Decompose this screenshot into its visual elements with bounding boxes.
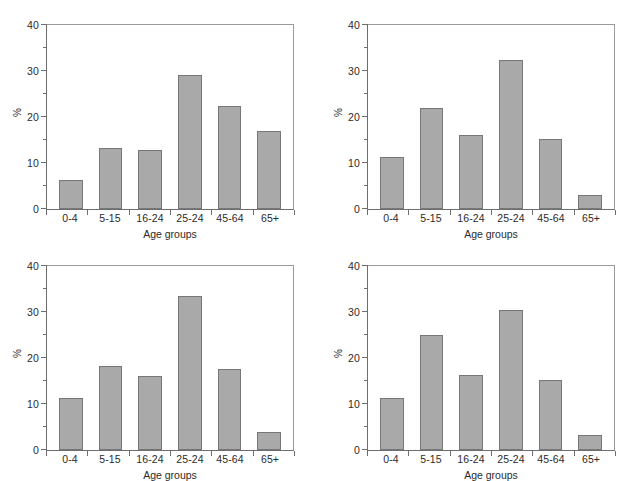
x-tick-label: 25-24 [491, 453, 531, 465]
bar-slot [451, 25, 491, 209]
bar-slot [170, 266, 210, 450]
y-tick-label: 0 [33, 203, 39, 215]
x-tick-label: 5-15 [90, 212, 130, 224]
x-axis-labels: 0-45-1516-2425-2445-6465+ [367, 453, 615, 465]
bar-slot [210, 25, 250, 209]
x-tick-label: 0-4 [50, 212, 90, 224]
y-tick-label: 20 [27, 352, 39, 364]
bar [459, 135, 483, 209]
bar [138, 150, 162, 209]
bar-slot [531, 25, 571, 209]
y-tick-minor [364, 139, 368, 140]
bar-slot [91, 25, 131, 209]
y-tick-label: 30 [348, 306, 360, 318]
y-tick-label: 40 [27, 19, 39, 31]
y-tick-major [362, 116, 368, 117]
y-tick-major [362, 208, 368, 209]
y-tick-major [362, 162, 368, 163]
y-tick-label: 40 [27, 260, 39, 272]
y-tick-major [362, 24, 368, 25]
y-tick-major [41, 311, 47, 312]
bar-slot [491, 25, 531, 209]
y-tick-label: 0 [354, 203, 360, 215]
y-tick-label: 30 [27, 65, 39, 77]
y-tick-major [362, 70, 368, 71]
y-tick-label: 20 [27, 111, 39, 123]
bar [138, 376, 162, 450]
bar-series [47, 266, 293, 450]
bar [380, 157, 404, 209]
x-axis-title: Age groups [46, 469, 294, 481]
bar [499, 60, 523, 209]
y-tick-label: 20 [348, 111, 360, 123]
x-tick-label: 5-15 [411, 453, 451, 465]
y-tick-major [362, 311, 368, 312]
y-tick-major [41, 265, 47, 266]
bar [459, 375, 483, 450]
y-tick-minor [43, 288, 47, 289]
y-tick-label: 10 [27, 157, 39, 169]
bar [99, 366, 123, 450]
y-tick-label: 0 [33, 444, 39, 456]
bar-slot [451, 266, 491, 450]
x-tick-label: 25-24 [170, 212, 210, 224]
bar-slot [372, 25, 412, 209]
y-tick-major [41, 162, 47, 163]
y-tick-label: 10 [348, 398, 360, 410]
y-tick-major [41, 357, 47, 358]
bar-slot [130, 266, 170, 450]
bar [578, 195, 602, 209]
plot-area: 010203040 [46, 24, 294, 210]
x-tick [294, 451, 295, 456]
bar-slot [372, 266, 412, 450]
figure-multi-panel-bar-charts: % a) White 010203040 0-45-1516-2425-2445… [0, 0, 641, 481]
x-axis-labels: 0-45-1516-2425-2445-6465+ [46, 453, 294, 465]
bar-series [47, 25, 293, 209]
y-axis-title: % [12, 108, 23, 117]
plot-area: 010203040 [367, 24, 615, 210]
x-tick-label: 45-64 [210, 453, 250, 465]
y-tick-minor [364, 93, 368, 94]
y-tick-major [362, 265, 368, 266]
y-axis-title: % [333, 349, 344, 358]
x-tick [615, 210, 616, 215]
x-axis-title: Age groups [367, 469, 615, 481]
y-tick-minor [364, 47, 368, 48]
y-tick-minor [43, 426, 47, 427]
y-tick-major [362, 357, 368, 358]
y-tick-label: 30 [348, 65, 360, 77]
x-tick-label: 45-64 [531, 453, 571, 465]
bar [539, 139, 563, 209]
y-tick-label: 10 [348, 157, 360, 169]
y-tick-major [41, 449, 47, 450]
y-tick-minor [43, 185, 47, 186]
bar-slot [412, 266, 452, 450]
x-tick-label: 0-4 [371, 212, 411, 224]
y-tick-minor [43, 47, 47, 48]
y-tick-minor [43, 380, 47, 381]
bar [59, 180, 83, 209]
x-tick-label: 16-24 [451, 453, 491, 465]
bar-slot [51, 266, 91, 450]
bar-series [368, 266, 614, 450]
x-tick-label: 65+ [571, 453, 611, 465]
bar [178, 296, 202, 450]
bar-slot [491, 266, 531, 450]
bar-slot [130, 25, 170, 209]
chart-panel-b: % b) Black 010203040 0-45-1516-2425-2445… [0, 241, 320, 481]
x-tick-label: 5-15 [90, 453, 130, 465]
x-tick-label: 25-24 [491, 212, 531, 224]
y-tick-minor [364, 288, 368, 289]
x-tick-label: 16-24 [130, 212, 170, 224]
chart-panel-c: % c) All ethnic minorities 010203040 0-4… [321, 0, 641, 240]
bar [539, 380, 563, 450]
bar [420, 335, 444, 450]
x-axis-labels: 0-45-1516-2425-2445-6465+ [367, 212, 615, 224]
bar-slot [570, 266, 610, 450]
bar [218, 369, 242, 450]
bar [380, 398, 404, 450]
bar-slot [210, 266, 250, 450]
y-tick-label: 30 [27, 306, 39, 318]
bar [578, 435, 602, 450]
y-tick-minor [364, 380, 368, 381]
